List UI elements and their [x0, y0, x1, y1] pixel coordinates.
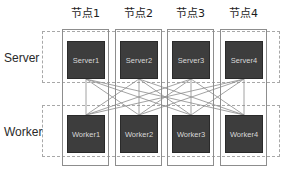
worker-node-3: Worker3 — [172, 115, 210, 153]
server-node-1: Server1 — [67, 41, 105, 79]
node-header-1: 节点1 — [62, 6, 109, 22]
worker-node-2: Worker2 — [120, 115, 158, 153]
node-header-4: 节点4 — [220, 6, 267, 22]
row-label-server: Server — [4, 51, 56, 65]
server-node-2: Server2 — [120, 41, 158, 79]
row-label-worker: Worker — [4, 125, 56, 139]
server-node-3: Server3 — [172, 41, 210, 79]
worker-node-1: Worker1 — [67, 115, 105, 153]
node-header-2: 节点2 — [115, 6, 162, 22]
worker-node-4: Worker4 — [225, 115, 263, 153]
server-node-4: Server4 — [225, 41, 263, 79]
node-header-3: 节点3 — [167, 6, 214, 22]
parameter-server-diagram: 节点1 节点2 节点3 节点4 Server Worker Server1 Se… — [0, 0, 286, 176]
